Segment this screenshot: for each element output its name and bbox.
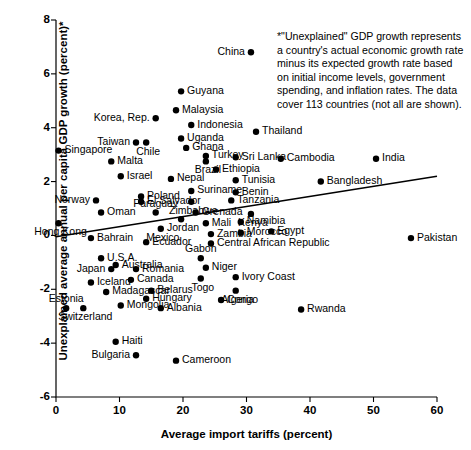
data-point bbox=[112, 339, 118, 345]
y-tick-label: 6 bbox=[20, 68, 50, 80]
data-point-label: Bahrain bbox=[97, 232, 133, 243]
data-point-label: Thailand bbox=[262, 125, 302, 136]
y-tick-label: 2 bbox=[20, 176, 50, 188]
data-point bbox=[178, 135, 184, 141]
x-tick-label: 50 bbox=[354, 405, 394, 417]
data-point bbox=[118, 302, 124, 308]
data-point bbox=[88, 235, 94, 241]
data-point-label: Cambodia bbox=[287, 152, 335, 163]
data-point-label: Grenada bbox=[202, 206, 243, 217]
data-point bbox=[88, 279, 94, 285]
data-point-label: Ethiopia bbox=[222, 163, 260, 174]
data-point bbox=[203, 220, 209, 226]
data-point-label: India bbox=[382, 152, 405, 163]
data-point bbox=[152, 115, 158, 121]
y-tick-label: 4 bbox=[20, 122, 50, 134]
data-point-label: Rwanda bbox=[307, 303, 346, 314]
data-point-label: Haiti bbox=[122, 335, 143, 346]
data-point-label: Albania bbox=[167, 302, 202, 313]
data-point-label: Bangladesh bbox=[327, 175, 382, 186]
data-point-label: Congo bbox=[227, 294, 258, 305]
data-point bbox=[152, 209, 158, 215]
data-point-label: China bbox=[218, 46, 245, 57]
x-tick-label: 20 bbox=[163, 405, 203, 417]
data-point bbox=[98, 209, 104, 215]
data-point-label: Egypt bbox=[277, 225, 304, 236]
data-point-label: Switzerland bbox=[58, 311, 112, 322]
data-point bbox=[108, 266, 114, 272]
data-point-label: Niger bbox=[212, 261, 237, 272]
data-point bbox=[228, 197, 234, 203]
data-point bbox=[173, 107, 179, 113]
data-point-label: Korea, Rep. bbox=[94, 112, 150, 123]
data-point bbox=[298, 306, 304, 312]
x-tick-label: 60 bbox=[417, 405, 457, 417]
data-point bbox=[173, 357, 179, 363]
data-point-label: Gabon bbox=[185, 243, 217, 254]
data-point bbox=[118, 173, 124, 179]
y-tick-label: -4 bbox=[20, 337, 50, 349]
data-point bbox=[373, 155, 379, 161]
data-point-label: Sri Lanka bbox=[242, 151, 286, 162]
data-point-label: Central African Republic bbox=[217, 237, 330, 248]
y-tick-label: 8 bbox=[20, 14, 50, 26]
data-point bbox=[408, 235, 414, 241]
data-point-label: Pakistan bbox=[417, 232, 457, 243]
data-point bbox=[178, 88, 184, 94]
data-point-label: Ivory Coast bbox=[242, 271, 295, 282]
data-point-label: Turkey bbox=[212, 149, 244, 160]
y-tick-label: -6 bbox=[20, 391, 50, 403]
data-point bbox=[108, 158, 114, 164]
data-point bbox=[233, 177, 239, 183]
data-point bbox=[98, 255, 104, 261]
data-point bbox=[188, 188, 194, 194]
data-point-label: Singapore bbox=[65, 144, 113, 155]
y-tick-label: 0 bbox=[20, 229, 50, 241]
data-point-label: Malta bbox=[117, 155, 143, 166]
data-point bbox=[188, 122, 194, 128]
data-point-label: Suriname bbox=[197, 184, 242, 195]
data-point bbox=[248, 49, 254, 55]
data-point bbox=[133, 352, 139, 358]
x-tick-label: 10 bbox=[100, 405, 140, 417]
data-point-label: Guyana bbox=[187, 85, 224, 96]
data-point-label: Indonesia bbox=[197, 119, 243, 130]
data-point bbox=[103, 289, 109, 295]
x-axis-title: Average import tariffs (percent) bbox=[56, 428, 437, 440]
data-point-label: Japan bbox=[77, 263, 106, 274]
data-point-label: Tanzania bbox=[237, 194, 279, 205]
data-point-label: Norway bbox=[54, 194, 90, 205]
data-point-label: Togo bbox=[191, 282, 214, 293]
data-point bbox=[253, 129, 259, 135]
x-tick-label: 30 bbox=[227, 405, 267, 417]
data-point-label: Cameroon bbox=[182, 354, 231, 365]
data-point-label: Israel bbox=[127, 170, 153, 181]
chart-footnote: *"Unexplained" GDP growth represents a c… bbox=[277, 30, 467, 111]
data-point-label: Estonia bbox=[49, 293, 84, 304]
data-point bbox=[198, 255, 204, 261]
data-point-label: Malaysia bbox=[182, 104, 223, 115]
data-point bbox=[208, 231, 214, 237]
data-point bbox=[318, 178, 324, 184]
data-point-label: Tunisia bbox=[242, 174, 275, 185]
data-point bbox=[183, 145, 189, 151]
x-tick-label: 0 bbox=[36, 405, 76, 417]
x-tick-label: 40 bbox=[290, 405, 330, 417]
data-point-label: Paraguay bbox=[133, 198, 178, 209]
data-point bbox=[203, 265, 209, 271]
y-tick-label: -2 bbox=[20, 283, 50, 295]
data-point-label: Nepal bbox=[177, 172, 204, 183]
data-point bbox=[93, 197, 99, 203]
scatter-chart: Unexplained average annual per capita GD… bbox=[0, 0, 471, 450]
data-point-label: Mongolia bbox=[127, 299, 170, 310]
data-point bbox=[168, 176, 174, 182]
data-point-label: Oman bbox=[107, 206, 136, 217]
data-point-label: Mali bbox=[212, 217, 231, 228]
data-point bbox=[233, 274, 239, 280]
data-point-label: Bulgaria bbox=[91, 349, 130, 360]
